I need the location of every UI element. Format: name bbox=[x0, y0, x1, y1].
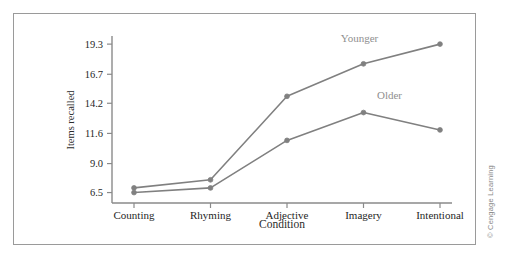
x-axis-title: Condition bbox=[259, 218, 305, 230]
y-tick-label: 11.6 bbox=[85, 128, 103, 139]
x-tick-label-counting: Counting bbox=[114, 209, 155, 221]
data-point-older-adjective bbox=[285, 138, 290, 143]
data-point-younger-adjective bbox=[285, 94, 290, 99]
data-point-younger-intentional bbox=[438, 42, 443, 47]
x-tick-marks bbox=[134, 203, 440, 208]
data-point-younger-rhyming bbox=[208, 177, 213, 182]
x-tick-label-intentional: Intentional bbox=[416, 209, 464, 221]
y-tick-label: 6.5 bbox=[90, 187, 103, 198]
data-point-older-counting bbox=[132, 190, 137, 195]
series-line-younger bbox=[134, 44, 440, 188]
data-point-older-imagery bbox=[361, 110, 366, 115]
series-label-older: Older bbox=[377, 89, 402, 101]
y-axis-title: Items recalled bbox=[65, 90, 76, 150]
y-tick-labels: 6.59.011.614.216.719.3 bbox=[85, 39, 103, 198]
series-label-younger: Younger bbox=[341, 32, 379, 44]
x-tick-label-rhyming: Rhyming bbox=[190, 209, 231, 221]
y-tick-label: 19.3 bbox=[85, 39, 103, 50]
data-point-younger-imagery bbox=[361, 61, 366, 66]
line-chart: 6.59.011.614.216.719.3 CountingRhymingAd… bbox=[0, 0, 513, 257]
x-tick-label-imagery: Imagery bbox=[345, 209, 382, 221]
series-line-older bbox=[134, 113, 440, 193]
data-point-younger-counting bbox=[132, 186, 137, 191]
y-tick-label: 14.2 bbox=[85, 98, 103, 109]
data-point-older-rhyming bbox=[208, 186, 213, 191]
data-series-group bbox=[132, 42, 443, 195]
y-tick-marks bbox=[107, 44, 112, 192]
y-tick-label: 9.0 bbox=[90, 158, 103, 169]
figure-container: 6.59.011.614.216.719.3 CountingRhymingAd… bbox=[0, 0, 513, 257]
y-tick-label: 16.7 bbox=[85, 69, 103, 80]
series-annotations: YoungerOlder bbox=[341, 32, 403, 101]
data-point-older-intentional bbox=[438, 128, 443, 133]
copyright-notice: © Cengage Learning bbox=[486, 224, 513, 238]
